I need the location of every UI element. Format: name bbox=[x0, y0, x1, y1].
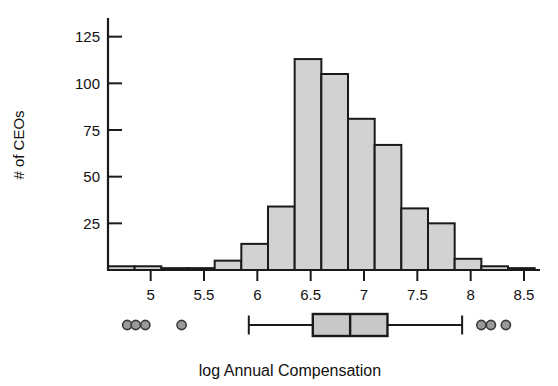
x-tick-label: 5.5 bbox=[194, 286, 215, 303]
y-tick-label: 25 bbox=[83, 215, 100, 232]
boxplot-outlier bbox=[501, 320, 510, 329]
boxplot-outlier bbox=[486, 320, 495, 329]
x-tick-label: 5 bbox=[146, 286, 154, 303]
x-tick-label: 7.5 bbox=[407, 286, 428, 303]
histogram-bar bbox=[348, 119, 375, 270]
histogram-bar bbox=[375, 145, 402, 270]
histogram-bar bbox=[321, 74, 348, 270]
histogram-bar bbox=[455, 259, 482, 270]
chart-figure: 255075100125 55.566.577.588.5 # of CEOs … bbox=[0, 0, 558, 386]
boxplot-outlier bbox=[477, 320, 486, 329]
histogram-bar bbox=[215, 261, 242, 270]
y-tick-label: 50 bbox=[83, 168, 100, 185]
histogram-bar bbox=[241, 244, 268, 270]
histogram-bar bbox=[268, 207, 295, 270]
y-tick-label: 125 bbox=[75, 28, 100, 45]
chart-background bbox=[0, 0, 558, 386]
histogram-bar bbox=[401, 208, 428, 270]
histogram-bar bbox=[295, 59, 322, 270]
x-tick-label: 6 bbox=[253, 286, 261, 303]
y-tick-label: 100 bbox=[75, 75, 100, 92]
histogram-boxplot-svg: 255075100125 55.566.577.588.5 # of CEOs … bbox=[0, 0, 558, 386]
x-tick-label: 8 bbox=[466, 286, 474, 303]
y-tick-label: 75 bbox=[83, 122, 100, 139]
boxplot-outlier bbox=[131, 320, 140, 329]
boxplot-outlier bbox=[177, 320, 186, 329]
y-axis-label: # of CEOs bbox=[10, 110, 27, 179]
x-tick-label: 6.5 bbox=[300, 286, 321, 303]
x-axis-label: log Annual Compensation bbox=[199, 362, 381, 379]
x-tick-label: 8.5 bbox=[514, 286, 535, 303]
histogram-bar bbox=[428, 223, 455, 270]
x-tick-label: 7 bbox=[360, 286, 368, 303]
boxplot-outlier bbox=[141, 320, 150, 329]
